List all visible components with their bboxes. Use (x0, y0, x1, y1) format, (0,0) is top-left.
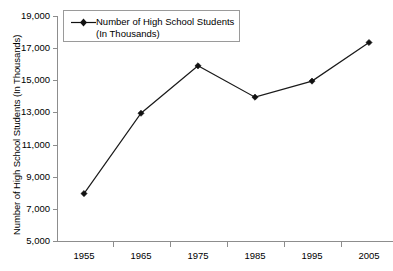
line-chart: Number of High School Students (In Thous… (0, 0, 393, 271)
legend: Number of High School Students (In Thous… (63, 10, 240, 42)
legend-label-line1: Number of High School Students (96, 16, 234, 28)
legend-label: Number of High School Students (In Thous… (96, 16, 234, 39)
legend-entry: Number of High School Students (In Thous… (71, 16, 234, 39)
data-point-marker (252, 94, 258, 100)
series-line (84, 43, 369, 194)
legend-label-line2: (In Thousands) (96, 28, 234, 40)
series-markers (81, 39, 372, 196)
legend-marker-icon (71, 17, 96, 28)
